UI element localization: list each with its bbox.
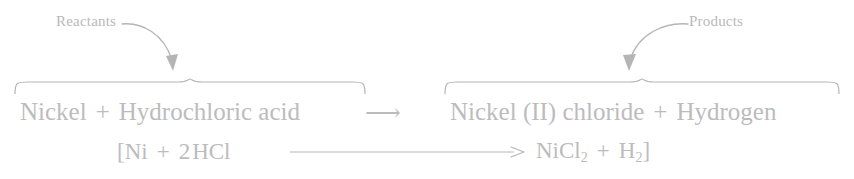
symbol-equation-open-bracket: [ xyxy=(117,139,125,164)
word-equation-reaction-arrow: ⟶ xyxy=(365,98,401,127)
products-annotation-label: Products xyxy=(689,13,743,30)
products-plus-operator: + xyxy=(644,98,676,126)
formula-nicl2-base: NiCl xyxy=(536,138,581,163)
formula-h2-base: H xyxy=(619,138,636,163)
reactants-annotation-label: Reactants xyxy=(56,13,116,30)
symbol-equation-reactants-side: [Ni+2HCl xyxy=(117,139,231,165)
formula-hcl: HCl xyxy=(192,139,230,164)
reactants-pointer-arrow-icon xyxy=(120,18,200,80)
formula-ni: Ni xyxy=(125,139,148,164)
product-term-hydrogen: Hydrogen xyxy=(676,98,776,125)
word-equation-products-side: Nickel (II) chloride+Hydrogen xyxy=(450,98,776,126)
products-pointer-arrow-icon xyxy=(600,18,695,80)
word-equation-row: Nickel+Hydrochloric acid ⟶ Nickel (II) c… xyxy=(0,95,854,129)
symbol-products-plus-operator: + xyxy=(588,138,619,164)
formula-h2: H2 xyxy=(619,138,643,163)
reactants-plus-operator: + xyxy=(87,98,119,126)
formula-nicl2: NiCl2 xyxy=(536,138,588,163)
products-overbrace-icon xyxy=(444,79,840,94)
chemical-equation-diagram: Reactants Products Nickel+Hydrochloric a… xyxy=(0,0,854,179)
reactants-overbrace-icon xyxy=(14,79,366,94)
symbol-equation-products-side: NiCl2+H2] xyxy=(536,138,650,167)
product-term-nickel-ii-chloride: Nickel (II) chloride xyxy=(450,98,644,125)
formula-nicl2-subscript: 2 xyxy=(581,149,588,165)
word-equation-reactants-side: Nickel+Hydrochloric acid xyxy=(20,98,300,126)
formula-h2-subscript: 2 xyxy=(635,149,642,165)
symbol-reactants-plus-operator: + xyxy=(148,139,179,165)
reactant-term-nickel: Nickel xyxy=(20,98,87,125)
reactant-term-hydrochloric-acid: Hydrochloric acid xyxy=(119,98,300,125)
symbol-equation-reaction-arrow-icon xyxy=(290,145,526,159)
coefficient-2-hcl: 2 xyxy=(179,139,193,164)
symbol-equation-close-bracket: ] xyxy=(643,138,651,163)
symbol-equation-row: [Ni+2HCl NiCl2+H2] xyxy=(0,136,854,168)
